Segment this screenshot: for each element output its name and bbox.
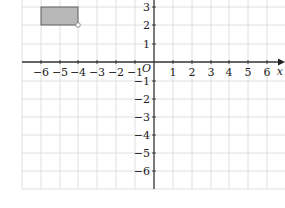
svg-text:−5: −5 xyxy=(134,147,150,160)
marked-point xyxy=(76,23,81,28)
svg-text:5: 5 xyxy=(245,66,252,79)
svg-text:−2: −2 xyxy=(134,93,150,106)
svg-text:−1: −1 xyxy=(134,75,150,88)
svg-text:6: 6 xyxy=(264,66,271,79)
svg-text:−2: −2 xyxy=(108,66,124,79)
svg-text:3: 3 xyxy=(143,1,150,14)
svg-text:3: 3 xyxy=(208,66,215,79)
svg-text:−6: −6 xyxy=(33,66,49,79)
svg-text:−6: −6 xyxy=(134,165,150,178)
x-axis-label: x xyxy=(277,65,284,78)
svg-text:1: 1 xyxy=(143,38,150,51)
origin-label: O xyxy=(142,62,151,75)
svg-text:−3: −3 xyxy=(89,66,105,79)
svg-text:4: 4 xyxy=(226,66,233,79)
svg-text:2: 2 xyxy=(189,66,196,79)
x-tick-labels: −6 −5 −4 −3 −2 −1 1 2 3 4 5 6 xyxy=(33,66,271,79)
svg-text:−3: −3 xyxy=(134,111,150,124)
svg-text:−4: −4 xyxy=(134,129,150,142)
svg-text:−5: −5 xyxy=(52,66,68,79)
svg-text:1: 1 xyxy=(170,66,177,79)
svg-text:−4: −4 xyxy=(70,66,86,79)
y-tick-labels: 3 2 1 −1 −2 −3 −4 −5 −6 xyxy=(134,1,150,178)
coordinate-grid: −6 −5 −4 −3 −2 −1 1 2 3 4 5 6 x O 3 2 1 … xyxy=(0,0,285,208)
shaded-rectangle xyxy=(41,7,78,25)
svg-text:2: 2 xyxy=(143,19,150,32)
